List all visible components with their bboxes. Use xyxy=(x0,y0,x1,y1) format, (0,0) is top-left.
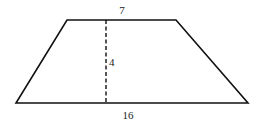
bottom-base-label: 16 xyxy=(123,109,135,121)
trapezoid-outline xyxy=(16,20,248,103)
trapezoid-diagram: 7 4 16 xyxy=(0,0,261,124)
height-label: 4 xyxy=(109,56,115,68)
top-base-label: 7 xyxy=(119,4,125,16)
